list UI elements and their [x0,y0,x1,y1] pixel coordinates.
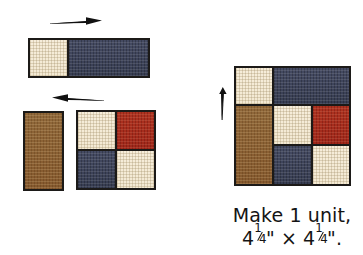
quilt-diagram-canvas: Make 1 unit, 414" × 414". [0,0,363,255]
fraction-denominator: 4 [259,234,267,246]
fabric-texture-navy [69,40,148,76]
four-patch-navy-bottom-left [76,149,117,190]
four-patch-cream-bottom-right [115,149,156,190]
four-patch-cream-top-left [76,110,117,151]
cream-square-strip-left [28,38,69,78]
fabric-texture-cream [313,146,349,184]
times-glyph: × [281,227,297,249]
caption-period: . [336,227,342,249]
unit-red-square-right [311,104,351,146]
fabric-texture-navy [78,151,115,188]
fabric-texture-navy [274,68,349,104]
measure-height-fraction: 14 [315,226,327,245]
unit-cream-square-bottom-right [311,144,351,186]
fraction-denominator: 4 [320,234,328,246]
fabric-texture-red [313,106,349,144]
unit-cream-square-top-left [234,66,274,106]
press-seam-up-arrow [215,86,229,122]
fabric-texture-navy [274,146,311,184]
unit-navy-square-bottom-center [272,144,313,186]
fabric-texture-red [117,112,154,149]
navy-rectangle-strip-right [67,38,150,78]
fabric-texture-cream [30,40,67,76]
brown-rectangle [23,111,64,191]
unit-brown-rectangle-left [234,104,274,186]
measure-height-whole: 4 [303,227,315,249]
fabric-texture-cream [274,106,311,144]
fabric-texture-brown [25,113,62,189]
caption-line-make-unit: Make 1 unit, [222,204,362,226]
measure-width-whole: 4 [242,227,254,249]
unit-navy-rectangle-top-right [272,66,351,106]
press-seam-right-arrow [48,14,104,26]
fabric-texture-cream [78,112,115,149]
press-seam-left-arrow [50,91,106,103]
fabric-texture-cream [117,151,154,188]
inch-mark-width: " [266,227,275,249]
inch-mark-height: " [327,227,336,249]
measure-width-fraction: 14 [254,226,266,245]
fabric-texture-cream [236,68,272,104]
fabric-texture-brown [236,106,272,184]
caption-line-measurements: 414" × 414". [222,226,362,249]
unit-caption: Make 1 unit, 414" × 414". [222,204,362,250]
four-patch-red-top-right [115,110,156,151]
unit-cream-square-center [272,104,313,146]
